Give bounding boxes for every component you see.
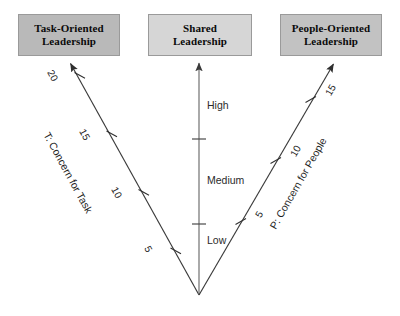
center-level-low: Low bbox=[207, 234, 226, 246]
center-level-high: High bbox=[207, 99, 229, 111]
left-axis-line bbox=[71, 64, 200, 296]
diagram-canvas: Task-Oriented Leadership Shared Leadersh… bbox=[0, 0, 400, 316]
center-level-medium: Medium bbox=[207, 174, 244, 186]
